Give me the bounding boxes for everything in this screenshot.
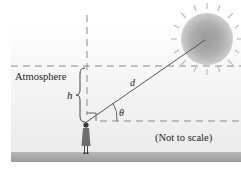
- height-label: h: [67, 89, 73, 101]
- atmosphere-label: Atmosphere: [15, 71, 67, 82]
- not-to-scale-note: (Not to scale): [155, 132, 213, 144]
- atmosphere-diagram: Atmosphere h d θ (Not to scale): [0, 0, 241, 170]
- ground: [11, 152, 241, 162]
- angle-label: θ: [119, 107, 124, 118]
